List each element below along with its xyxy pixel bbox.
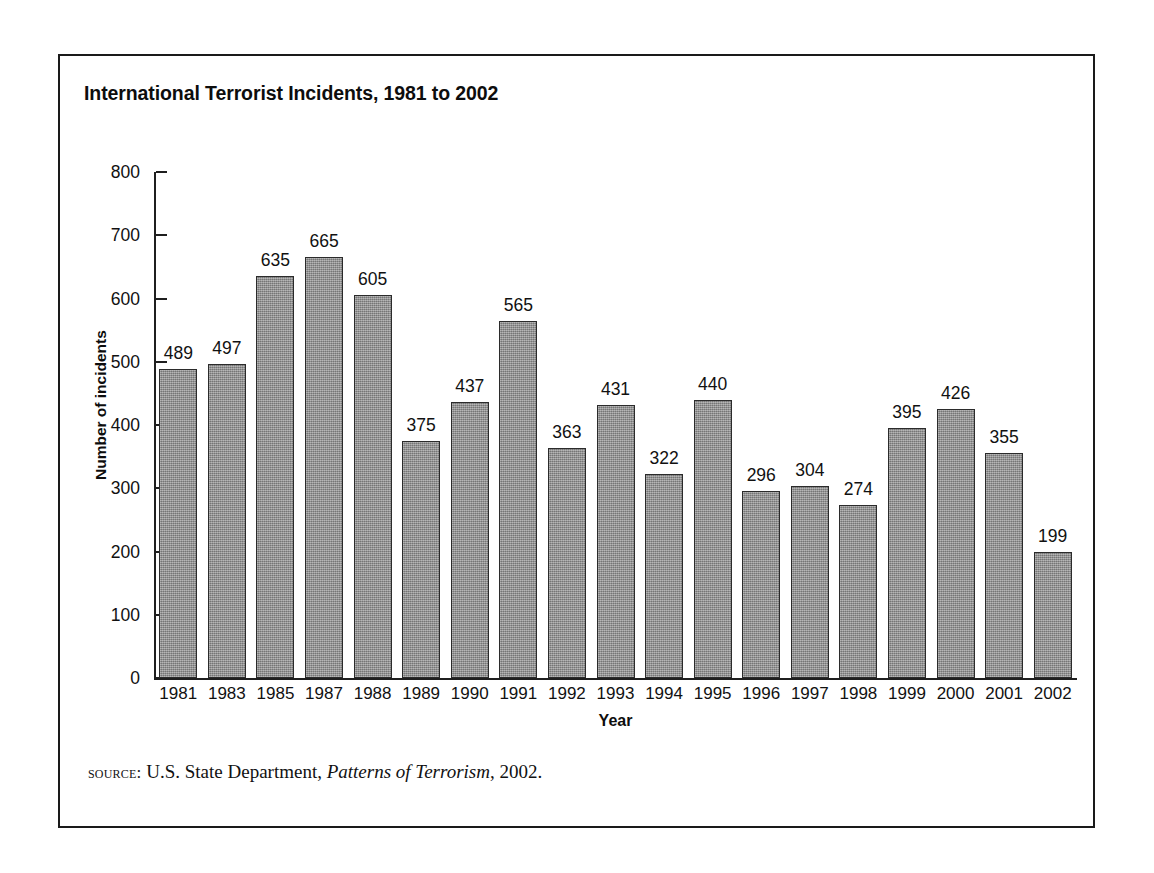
x-axis-tick-label: 1990 — [451, 684, 489, 704]
bar-rect[interactable] — [159, 369, 197, 678]
bar-value-label: 395 — [892, 402, 921, 423]
bar-value-label: 665 — [309, 231, 338, 252]
x-axis-line — [154, 678, 1077, 680]
x-axis-tick-label: 1998 — [839, 684, 877, 704]
bar-rect[interactable] — [1034, 552, 1072, 678]
y-axis-tick-label: 700 — [111, 225, 140, 246]
bar-value-label: 304 — [795, 460, 824, 481]
bar-value-label: 375 — [407, 415, 436, 436]
x-axis-tick-label: 1994 — [645, 684, 683, 704]
bar-item[interactable]: 6351985 — [256, 170, 294, 678]
y-axis-tick-label: 600 — [111, 288, 140, 309]
source-publication-title: Patterns of Terrorism — [327, 761, 490, 782]
bar-item[interactable]: 6651987 — [305, 170, 343, 678]
x-axis-tick-label: 1987 — [305, 684, 343, 704]
bar-value-label: 605 — [358, 269, 387, 290]
bar-item[interactable]: 4401995 — [694, 170, 732, 678]
x-axis-title: Year — [154, 712, 1077, 730]
x-axis-tick-label: 1985 — [257, 684, 295, 704]
bar-item[interactable]: 3751989 — [402, 170, 440, 678]
bar-item[interactable]: 1992002 — [1034, 170, 1072, 678]
x-axis-tick-label: 1996 — [742, 684, 780, 704]
bar-rect[interactable] — [208, 364, 246, 678]
source-text-before: U.S. State Department, — [141, 761, 326, 782]
bar-rect[interactable] — [985, 453, 1023, 678]
bar-item[interactable]: 4262000 — [937, 170, 975, 678]
x-axis-tick-label: 1991 — [499, 684, 537, 704]
bar-rect[interactable] — [451, 402, 489, 678]
x-axis-tick-label: 1989 — [402, 684, 440, 704]
bar-value-label: 635 — [261, 250, 290, 271]
y-axis-tick-label: 800 — [111, 162, 140, 183]
x-axis-tick-label: 1997 — [791, 684, 829, 704]
bar-rect[interactable] — [305, 257, 343, 678]
bar-item[interactable]: 2961996 — [742, 170, 780, 678]
bar-rect[interactable] — [888, 428, 926, 678]
source-note: source: U.S. State Department, Patterns … — [88, 761, 542, 783]
bar-rect[interactable] — [597, 405, 635, 678]
bar-rect[interactable] — [742, 491, 780, 678]
bar-value-label: 437 — [455, 376, 484, 397]
y-axis-tick-label: 100 — [111, 604, 140, 625]
bar-item[interactable]: 2741998 — [839, 170, 877, 678]
x-axis-tick-label: 1999 — [888, 684, 926, 704]
bar-value-label: 363 — [552, 422, 581, 443]
y-axis-title: Number of incidents — [92, 330, 110, 480]
bar-rect[interactable] — [937, 409, 975, 678]
bar-value-label: 274 — [844, 479, 873, 500]
plot-area: 0100200300400500600700800 48919814971983… — [154, 172, 1077, 680]
x-axis-tick-label: 1988 — [354, 684, 392, 704]
bar-rect[interactable] — [548, 448, 586, 678]
y-axis-tick-label: 300 — [111, 478, 140, 499]
bar-value-label: 440 — [698, 374, 727, 395]
bar-rect[interactable] — [256, 276, 294, 678]
bar-item[interactable]: 3221994 — [645, 170, 683, 678]
bar-item[interactable]: 4311993 — [597, 170, 635, 678]
x-axis-tick-label: 1981 — [159, 684, 197, 704]
y-axis-tick-label: 0 — [130, 668, 140, 689]
bar-value-label: 426 — [941, 383, 970, 404]
source-label: source: — [88, 763, 141, 782]
y-axis-line — [154, 172, 156, 680]
bar-value-label: 296 — [747, 465, 776, 486]
bar-item[interactable]: 3951999 — [888, 170, 926, 678]
bar-value-label: 497 — [212, 338, 241, 359]
x-axis-tick-label: 1992 — [548, 684, 586, 704]
bar-rect[interactable] — [645, 474, 683, 678]
x-axis-tick-label: 2002 — [1034, 684, 1072, 704]
bar-item[interactable]: 4891981 — [159, 170, 197, 678]
bar-item[interactable]: 4971983 — [208, 170, 246, 678]
chart-title: International Terrorist Incidents, 1981 … — [84, 82, 498, 105]
bar-item[interactable]: 5651991 — [499, 170, 537, 678]
bar-value-label: 489 — [164, 343, 193, 364]
bar-rect[interactable] — [694, 400, 732, 678]
bar-rect[interactable] — [839, 505, 877, 678]
bar-item[interactable]: 6051988 — [354, 170, 392, 678]
bar-item[interactable]: 3552001 — [985, 170, 1023, 678]
bar-rect[interactable] — [354, 295, 392, 678]
bar-value-label: 565 — [504, 295, 533, 316]
bar-rect[interactable] — [791, 486, 829, 678]
x-axis-tick-label: 2000 — [937, 684, 975, 704]
y-axis-tick-label: 400 — [111, 415, 140, 436]
figure-frame: International Terrorist Incidents, 1981 … — [58, 54, 1095, 828]
bar-item[interactable]: 3041997 — [791, 170, 829, 678]
bar-item[interactable]: 3631992 — [548, 170, 586, 678]
x-axis-tick-label: 1983 — [208, 684, 246, 704]
y-axis-tick-label: 500 — [111, 351, 140, 372]
source-text-after: , 2002. — [490, 761, 542, 782]
bar-value-label: 431 — [601, 379, 630, 400]
y-axis-tick-label: 200 — [111, 541, 140, 562]
bar-rect[interactable] — [499, 321, 537, 678]
x-axis-tick-label: 1993 — [597, 684, 635, 704]
bar-item[interactable]: 4371990 — [451, 170, 489, 678]
x-axis-tick-label: 1995 — [694, 684, 732, 704]
bar-value-label: 199 — [1038, 526, 1067, 547]
bar-value-label: 355 — [990, 427, 1019, 448]
bar-rect[interactable] — [402, 441, 440, 678]
x-axis-tick-label: 2001 — [985, 684, 1023, 704]
bar-value-label: 322 — [649, 448, 678, 469]
